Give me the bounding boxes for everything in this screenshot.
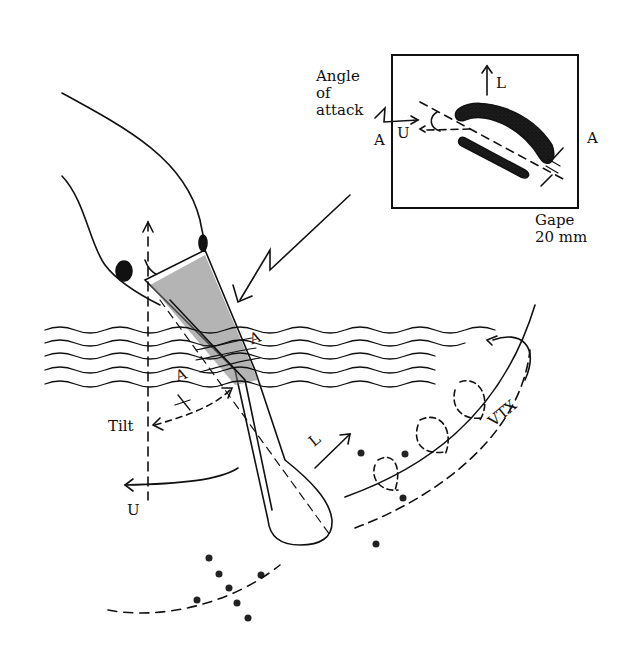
bill-axis-line	[160, 300, 330, 535]
spoonbill-head	[62, 93, 332, 545]
inset-flow-label: U	[397, 125, 410, 142]
motion-arrow-icon	[240, 195, 350, 300]
tilt-label: Tilt	[108, 418, 134, 435]
diagram-canvas: Angle of attack A A U L Gape 20 mm A A T…	[0, 0, 635, 660]
inset-section-right-label: A	[587, 130, 598, 147]
angle-of-attack-label: Angle of attack	[316, 68, 363, 119]
gape-label: Gape 20 mm	[535, 212, 587, 246]
inset-section-left-label: A	[374, 132, 385, 149]
flow-label: U	[127, 502, 140, 519]
inset-lift-label: L	[496, 75, 506, 92]
water-surface	[45, 327, 495, 387]
